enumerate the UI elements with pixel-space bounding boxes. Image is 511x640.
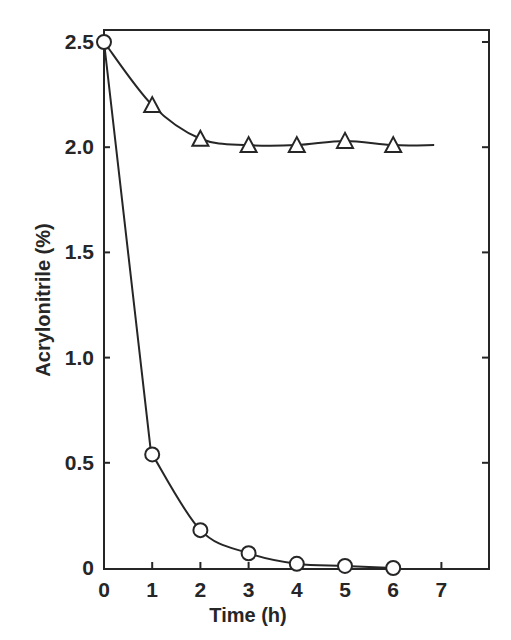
circle-series-curve: [104, 42, 393, 568]
series-markers: [97, 35, 401, 575]
circle-marker-icon: [386, 561, 400, 575]
plot-frame: [104, 30, 489, 569]
x-tick-label: 7: [436, 578, 448, 601]
circle-marker-icon: [193, 523, 207, 537]
y-tick-label: 1.5: [65, 240, 95, 263]
x-tick-label: 0: [98, 578, 110, 601]
y-tick-label: 2.5: [65, 30, 95, 53]
triangle-marker-icon: [192, 131, 208, 146]
x-axis-title: Time (h): [209, 604, 286, 626]
plot-border: [104, 30, 489, 569]
y-tick-label: 2.0: [65, 135, 94, 158]
circle-marker-icon: [290, 557, 304, 571]
series-curves: [104, 42, 434, 568]
circle-marker-icon: [145, 447, 159, 461]
y-axis-ticks: 00.51.01.52.02.5: [65, 30, 489, 579]
y-tick-label: 1.0: [65, 346, 94, 369]
acrylonitrile-chart: 00.51.01.52.02.5 01234567 Time (h) Acryl…: [0, 0, 511, 640]
y-tick-label: 0.5: [65, 451, 95, 474]
circle-marker-icon: [242, 546, 256, 560]
x-tick-label: 6: [387, 578, 399, 601]
circle-marker-icon: [97, 35, 111, 49]
y-axis-title: Acrylonitrile (%): [32, 223, 54, 376]
x-tick-label: 5: [339, 578, 351, 601]
x-tick-label: 3: [243, 578, 255, 601]
circle-marker-icon: [338, 559, 352, 573]
x-tick-label: 1: [146, 578, 158, 601]
triangle-series-curve: [104, 42, 434, 146]
x-tick-label: 2: [195, 578, 207, 601]
x-tick-label: 4: [291, 578, 303, 601]
y-tick-label: 0: [82, 556, 94, 579]
